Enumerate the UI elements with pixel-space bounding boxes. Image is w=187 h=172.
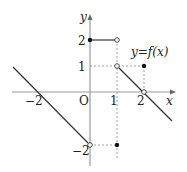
y-tick-2: 2 <box>78 34 86 48</box>
closed-point-1-neg2 <box>115 143 119 147</box>
y-axis-label: y <box>79 10 87 24</box>
y-tick-1: 1 <box>78 60 86 74</box>
function-graph: y x O −2 1 2 2 1 −2 y=f(x) <box>0 0 187 172</box>
y-tick-neg2: −2 <box>72 144 90 158</box>
open-point-1-2 <box>115 38 120 43</box>
closed-point-2-1 <box>142 64 146 68</box>
closed-point-0-2 <box>88 38 92 42</box>
y-axis-arrow-icon <box>88 14 93 20</box>
x-axis-label: x <box>166 94 173 108</box>
right-segment <box>119 68 172 121</box>
x-tick-1: 1 <box>110 94 118 108</box>
function-label: y=f(x) <box>130 45 169 59</box>
origin-label: O <box>79 94 89 108</box>
x-tick-2: 2 <box>137 94 145 108</box>
x-tick-neg2: −2 <box>25 94 43 108</box>
open-point-1-1 <box>115 64 120 69</box>
